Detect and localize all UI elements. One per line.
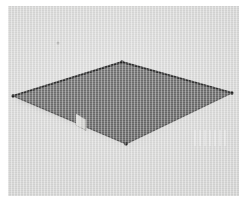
photograph (8, 6, 239, 196)
panel-corner-left (11, 94, 14, 97)
panel-corner-right (230, 91, 233, 94)
surface-speck (56, 41, 59, 44)
image-canvas (0, 0, 247, 208)
panel-corner-top (120, 60, 123, 63)
panel-illustration (8, 6, 239, 196)
panel-surface (13, 62, 232, 144)
panel-corner-bottom (124, 142, 127, 145)
